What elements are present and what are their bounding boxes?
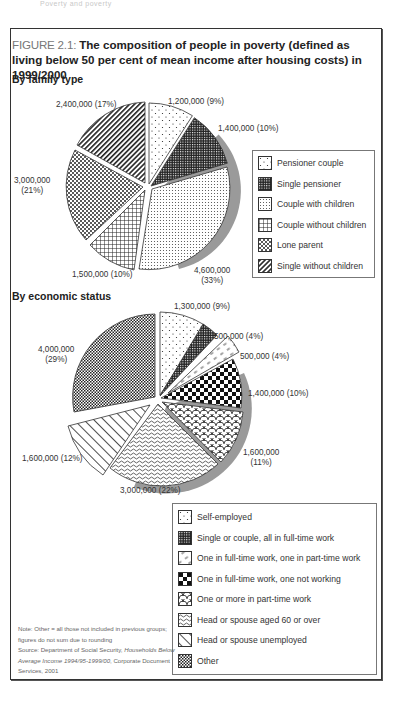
label-other-value: 4,000,000: [38, 345, 74, 355]
legend-label: Head or spouse unemployed: [197, 635, 307, 645]
family-legend: Pensioner couple Single pensioner Couple…: [252, 150, 375, 278]
label-lone-parent-pct: (21%): [14, 186, 50, 196]
legend-item-pensioner-couple: Pensioner couple: [253, 153, 374, 174]
label-couple-with-children: 4,600,000 (33%): [194, 266, 230, 286]
figure-note: Note: Other = all those not included in …: [18, 624, 178, 677]
label-other: 4,000,000 (29%): [38, 345, 74, 365]
legend-item-all-full-time: Single or couple, all in full-time work: [173, 528, 376, 549]
note-text: Note: Other = all those not included in …: [18, 624, 178, 645]
legend-item-couple-with-children: Couple with children: [253, 194, 374, 215]
legend-label: Self-employed: [197, 512, 252, 522]
swatch-diagonal-stripes-icon: [258, 259, 272, 273]
swatch-dashes-icon: [178, 551, 192, 565]
label-part-time: 1,600,000 (11%): [243, 448, 279, 468]
legend-item-ft-pt: One in full-time work, one in part-time …: [173, 548, 376, 569]
label-single-without-children: 2,400,000 (17%): [56, 100, 117, 110]
legend-label: Single or couple, all in full-time work: [197, 533, 334, 543]
legend-item-ft-not-working: One in full-time work, one not working: [173, 569, 376, 590]
swatch-fine-check-icon: [178, 654, 192, 668]
label-part-time-value: 1,600,000: [243, 448, 279, 458]
swatch-fine-dots-icon: [258, 197, 272, 211]
legend-label: Other: [197, 656, 219, 666]
legend-label: Pensioner couple: [277, 158, 343, 168]
swatch-checkerboard-icon: [178, 572, 192, 586]
legend-label: Couple without children: [277, 220, 366, 230]
label-all-full-time: 500,000 (4%): [214, 332, 263, 342]
label-self-employed: 1,300,000 (9%): [174, 302, 230, 312]
swatch-wide-diagonal-icon: [178, 633, 192, 647]
legend-item-aged-60: Head or spouse aged 60 or over: [173, 610, 376, 631]
legend-item-couple-without-children: Couple without children: [253, 215, 374, 236]
label-couple-with-children-value: 4,600,000: [194, 266, 230, 276]
label-pensioner-couple: 1,200,000 (9%): [168, 97, 224, 107]
legend-label: Head or spouse aged 60 or over: [197, 615, 320, 625]
legend-item-part-time: One or more in part-time work: [173, 589, 376, 610]
legend-item-lone-parent: Lone parent: [253, 235, 374, 256]
legend-item-single-pensioner: Single pensioner: [253, 174, 374, 195]
label-ft-pt: 500,000 (4%): [240, 352, 289, 362]
legend-item-other: Other: [173, 651, 376, 672]
label-lone-parent: 3,000,000 (21%): [14, 176, 50, 196]
label-ft-not-working: 1,400,000 (10%): [248, 389, 309, 399]
legend-label: Single without children: [277, 261, 363, 271]
label-couple-with-children-pct: (33%): [194, 276, 230, 286]
legend-label: Single pensioner: [277, 179, 341, 189]
legend-label: Couple with children: [277, 199, 354, 209]
legend-item-self-employed: Self-employed: [173, 507, 376, 528]
label-couple-without-children: 1,500,000 (10%): [72, 270, 133, 280]
swatch-grid-icon: [258, 218, 272, 232]
swatch-scales-icon: [178, 592, 192, 606]
family-pie: [66, 102, 241, 270]
label-part-time-pct: (11%): [243, 458, 279, 468]
label-other-pct: (29%): [38, 355, 74, 365]
label-aged-60: 3,000,000 (22%): [120, 486, 181, 496]
swatch-bold-dots-icon: [258, 238, 272, 252]
source-prefix: Source: Department of Social Security,: [18, 646, 124, 653]
legend-label: One in full-time work, one not working: [197, 574, 341, 584]
label-lone-parent-value: 3,000,000: [14, 176, 50, 186]
source-text: Source: Department of Social Security, H…: [18, 645, 178, 677]
legend-item-unemployed: Head or spouse unemployed: [173, 630, 376, 651]
legend-label: Lone parent: [277, 240, 323, 250]
legend-item-single-without-children: Single without children: [253, 256, 374, 277]
swatch-sparse-dots-icon: [258, 156, 272, 170]
swatch-sparse-dots-icon: [178, 510, 192, 524]
slice-couple-with-children: [139, 167, 230, 270]
legend-label: One in full-time work, one in part-time …: [197, 553, 360, 563]
swatch-dark-check-icon: [258, 177, 272, 191]
label-single-pensioner: 1,400,000 (10%): [218, 124, 279, 134]
swatch-waves-icon: [178, 613, 192, 627]
label-unemployed: 1,600,000 (12%): [22, 454, 83, 464]
economic-legend: Self-employed Single or couple, all in f…: [172, 503, 377, 675]
legend-label: One or more in part-time work: [197, 594, 311, 604]
swatch-dark-check-icon: [178, 531, 192, 545]
slice-other: [73, 314, 155, 412]
